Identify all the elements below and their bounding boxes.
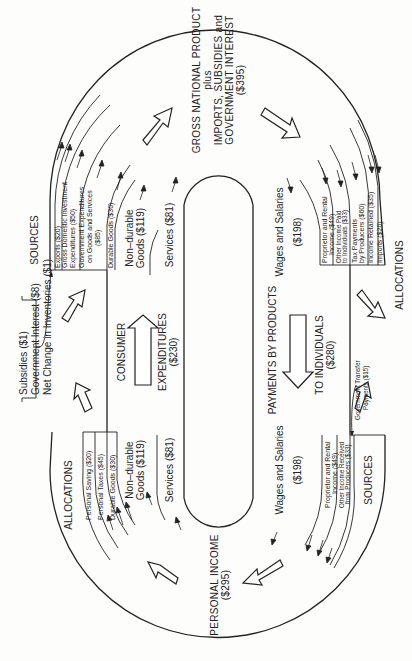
svg-text:Gross Domestic Investment: Gross Domestic Investment (61, 182, 68, 268)
svg-text:Durable Goods ($30): Durable Goods ($30) (107, 203, 115, 268)
pi-allocations-items: Personal Saving ($20) Personal Taxes ($4… (85, 451, 117, 520)
gnp-label: GROSS NATIONAL PRODUCT plus IMPORTS, SUB… (191, 7, 246, 154)
svg-text:Goods ($119): Goods ($119) (135, 440, 146, 500)
svg-text:on Goods and Services: on Goods and Services (86, 190, 93, 263)
svg-text:SOURCES: SOURCES (29, 215, 40, 265)
arrow-payments-to-individuals (283, 315, 313, 388)
circular-flow-diagram: GROSS NATIONAL PRODUCT plus IMPORTS, SUB… (0, 0, 412, 661)
svg-text:Government Expenditures: Government Expenditures (78, 186, 86, 268)
gnp-allocations-items: Proprietor and Rental Income ($49) Other… (321, 192, 384, 263)
svg-text:Income Retained ($35): Income Retained ($35) (367, 192, 375, 263)
arrow-to-pi-right (243, 560, 283, 585)
payments-label: PAYMENTS BY PRODUCTS (267, 285, 278, 414)
arrow-into-sources (62, 290, 85, 322)
svg-text:($85): ($85) (94, 230, 102, 246)
svg-text:Payments ($15): Payments ($15) (362, 366, 370, 410)
svg-text:from Producers ($33): from Producers ($33) (344, 445, 352, 505)
svg-text:IMPORTS, SUBSIDIES and: IMPORTS, SUBSIDIES and (213, 15, 224, 145)
nondurable-goods-top: Non–durable Goods ($119) (124, 208, 146, 268)
svg-text:CONSUMER: CONSUMER (116, 323, 127, 381)
svg-text:Imports ($20): Imports ($20) (376, 221, 384, 263)
svg-text:Expenditures ($50): Expenditures ($50) (69, 209, 77, 268)
svg-text:GOVERNMENT INTEREST: GOVERNMENT INTEREST (224, 15, 235, 144)
payments-value: TO INDIVIDUALS ($280) (314, 315, 336, 395)
consumer-expenditures-label: CONSUMER (116, 323, 127, 381)
inner-loop (184, 176, 253, 527)
svg-text:plus: plus (202, 70, 213, 90)
arrow-out-pi-allocations (74, 383, 92, 412)
svg-text:Government Transfer: Government Transfer (354, 361, 361, 421)
services-bottom: Services ($81) (164, 438, 175, 502)
arrow-consumer-expenditures (128, 315, 158, 385)
svg-text:Goods ($119): Goods ($119) (135, 208, 146, 268)
gnp-sources-heading: SOURCES (29, 215, 40, 265)
arrow-from-gnp-right (261, 108, 300, 138)
svg-text:ALLOCATIONS: ALLOCATIONS (394, 240, 405, 310)
svg-text:($198): ($198) (292, 456, 303, 485)
svg-text:Subsidies ($1): Subsidies ($1) (18, 331, 29, 395)
svg-text:($295): ($295) (220, 570, 231, 601)
pi-sources-heading: SOURCES (363, 455, 374, 505)
pi-allocations-heading: ALLOCATIONS (63, 460, 74, 530)
pi-sources-items: Proprietor and Rental Income ($49) Other… (324, 441, 352, 508)
svg-text:Net Change in Inventories ($1): Net Change in Inventories ($1) (42, 259, 53, 395)
svg-text:PAYMENTS BY PRODUCTS: PAYMENTS BY PRODUCTS (267, 285, 278, 414)
svg-text:to Individuals ($33): to Individuals ($33) (341, 210, 349, 263)
gnp-allocations-heading: ALLOCATIONS (394, 240, 405, 310)
svg-text:EXPENDITURES: EXPENDITURES (157, 313, 168, 391)
wages-bottom: Wages and Salaries ($198) (274, 425, 303, 514)
svg-text:Non–durable: Non–durable (124, 441, 135, 499)
adjustments-list: Subsidies ($1) Government Interest ($8) … (18, 259, 53, 395)
arrow-out-allocations (357, 290, 385, 318)
svg-text:GROSS NATIONAL PRODUCT: GROSS NATIONAL PRODUCT (191, 7, 202, 154)
svg-text:Wages and Salaries: Wages and Salaries (274, 187, 285, 276)
svg-text:($280): ($280) (325, 341, 336, 370)
svg-text:Non–durable: Non–durable (124, 209, 135, 267)
consumer-expenditures-value: EXPENDITURES ($230) (157, 313, 179, 391)
svg-text:PERSONAL INCOME: PERSONAL INCOME (209, 534, 220, 635)
svg-text:($395): ($395) (235, 65, 246, 96)
arrow-from-pi-left (148, 562, 178, 584)
svg-text:($198): ($198) (292, 218, 303, 247)
svg-text:($230): ($230) (168, 338, 179, 367)
gnp-sources-items: Exports ($20) Gross Domestic Investment … (54, 182, 115, 268)
svg-text:Government Interest ($8): Government Interest ($8) (30, 283, 41, 395)
arrow-to-gnp-left (143, 108, 172, 145)
svg-text:Personal Saving ($20): Personal Saving ($20) (85, 451, 93, 520)
svg-text:TO INDIVIDUALS: TO INDIVIDUALS (314, 315, 325, 395)
svg-text:Services ($81): Services ($81) (164, 203, 175, 267)
svg-text:Wages and Salaries: Wages and Salaries (274, 425, 285, 514)
svg-text:Personal Taxes ($45): Personal Taxes ($45) (97, 454, 105, 520)
svg-text:ALLOCATIONS: ALLOCATIONS (63, 460, 74, 530)
government-transfer: Government Transfer Payments ($15) (354, 361, 370, 421)
wages-top: Wages and Salaries ($198) (274, 187, 303, 276)
svg-text:Services ($81): Services ($81) (164, 438, 175, 502)
svg-text:SOURCES: SOURCES (363, 455, 374, 505)
svg-text:Durable Goods ($30): Durable Goods ($30) (109, 455, 117, 520)
nondurable-goods-bottom: Non–durable Goods ($119) (124, 440, 146, 500)
personal-income-label: PERSONAL INCOME ($295) (209, 534, 231, 635)
services-top: Services ($81) (164, 203, 175, 267)
svg-text:by Producers ($60): by Producers ($60) (358, 203, 366, 263)
